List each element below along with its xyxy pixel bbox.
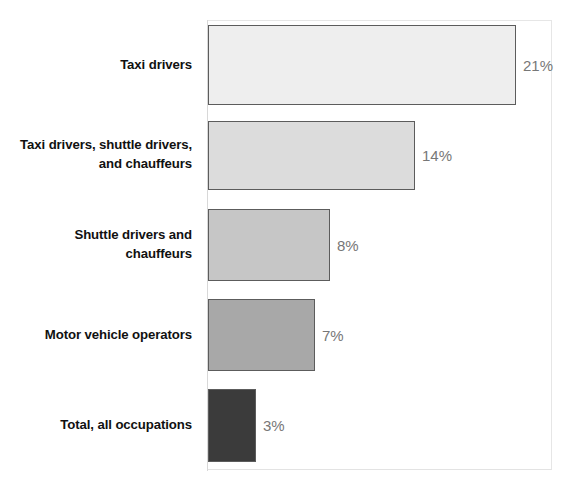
category-label: Taxi drivers xyxy=(4,20,200,110)
bar-taxi-shuttle-chauffeurs xyxy=(208,121,415,190)
category-label-line2: and chauffeurs xyxy=(99,156,192,171)
category-label-line1: Shuttle drivers and xyxy=(74,227,192,242)
category-label-line1: Taxi drivers, shuttle drivers, xyxy=(20,137,192,152)
bar-and-value: 7% xyxy=(208,290,576,380)
bar-and-value: 8% xyxy=(208,200,576,290)
bar-taxi-drivers xyxy=(208,25,516,105)
bar-rows: Taxi drivers 21% Taxi drivers, shuttle d… xyxy=(0,20,576,470)
value-label: 14% xyxy=(422,147,452,164)
bar-and-value: 3% xyxy=(208,380,576,470)
value-label: 3% xyxy=(263,417,285,434)
bar-row: Taxi drivers 21% xyxy=(0,20,576,110)
bar-and-value: 21% xyxy=(208,20,576,110)
bar-row: Taxi drivers, shuttle drivers, and chauf… xyxy=(0,110,576,200)
category-label: Total, all occupations xyxy=(4,380,200,470)
category-label-line1: Total, all occupations xyxy=(60,416,192,435)
category-label-text: Shuttle drivers and chauffeurs xyxy=(74,226,192,263)
category-label-line1: Motor vehicle operators xyxy=(45,326,192,345)
bar-row: Total, all occupations 3% xyxy=(0,380,576,470)
bar-row: Motor vehicle operators 7% xyxy=(0,290,576,380)
bar-row: Shuttle drivers and chauffeurs 8% xyxy=(0,200,576,290)
category-label: Shuttle drivers and chauffeurs xyxy=(4,200,200,290)
category-label-line2: chauffeurs xyxy=(126,246,192,261)
chart-title xyxy=(0,0,576,5)
category-label: Taxi drivers, shuttle drivers, and chauf… xyxy=(4,110,200,200)
value-label: 21% xyxy=(523,57,553,74)
category-label: Motor vehicle operators xyxy=(4,290,200,380)
bar-and-value: 14% xyxy=(208,110,576,200)
value-label: 8% xyxy=(337,237,359,254)
category-label-line1: Taxi drivers xyxy=(120,56,192,75)
value-label: 7% xyxy=(322,327,344,344)
bar-motor-vehicle-operators xyxy=(208,299,315,371)
bar-shuttle-chauffeurs xyxy=(208,209,330,281)
category-label-text: Taxi drivers, shuttle drivers, and chauf… xyxy=(20,136,192,173)
bar-total-all-occupations xyxy=(208,389,256,462)
bar-chart: Taxi drivers 21% Taxi drivers, shuttle d… xyxy=(0,0,576,483)
